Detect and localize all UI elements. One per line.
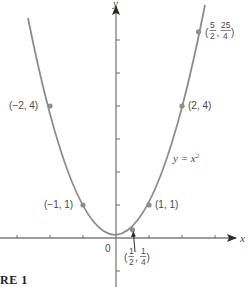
svg-text:2: 2 [210, 31, 215, 41]
point-neg1-1 [80, 202, 85, 207]
label-neg1-1: (−1, 1) [44, 199, 73, 210]
svg-text:5: 5 [210, 20, 215, 30]
label-5half-25quarter: ( 5 2 , 25 4 ) [205, 20, 234, 41]
label-half-quarter: ( 1 2 , 1 4 ) [124, 246, 150, 267]
point-neg2-4 [47, 103, 52, 108]
svg-text:): ) [231, 27, 234, 38]
svg-text:1: 1 [141, 246, 146, 256]
svg-text:,: , [135, 252, 138, 263]
point-half-quarter [130, 227, 135, 232]
svg-text:4: 4 [141, 257, 146, 267]
svg-text:(: ( [205, 27, 209, 38]
figure-caption: RE 1 [0, 273, 28, 287]
origin-label: 0 [105, 243, 111, 254]
label-1-1: (1, 1) [155, 199, 178, 210]
svg-text:1: 1 [129, 246, 134, 256]
function-label: y = x2 [172, 152, 200, 164]
point-2-4 [179, 103, 184, 108]
parabola-plot: y x 0 y = x2 (−2, 4) (−1, 1) (1, 1) (2, … [0, 0, 248, 287]
svg-text:(: ( [124, 252, 128, 263]
y-axis-label: y [112, 0, 118, 9]
point-1-1 [146, 202, 151, 207]
svg-text:,: , [217, 27, 220, 38]
svg-text:2: 2 [129, 257, 134, 267]
point-5half-25quarter [196, 29, 201, 34]
x-axis-label: x [239, 232, 245, 244]
svg-text:25: 25 [221, 20, 231, 30]
svg-text:4: 4 [223, 31, 228, 41]
label-neg2-4: (−2, 4) [9, 100, 38, 111]
label-2-4: (2, 4) [188, 100, 211, 111]
svg-text:): ) [147, 252, 150, 263]
